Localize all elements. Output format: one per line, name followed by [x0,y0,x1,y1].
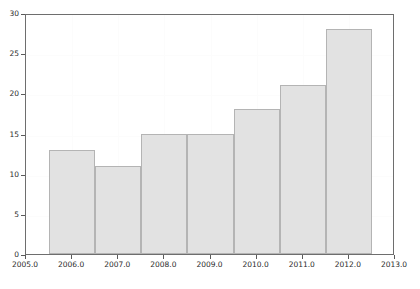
y-tick-label: 5 [0,211,19,219]
y-axis: 051015202530 [0,0,25,289]
y-tick-mark [21,14,25,15]
x-tick-label: 2011.0 [282,260,322,269]
x-tick-mark [163,255,164,259]
bar [326,29,372,254]
x-tick-label: 2009.0 [190,260,230,269]
y-tick-mark [21,94,25,95]
bar [187,134,233,255]
x-tick-mark [117,255,118,259]
y-tick-label: 10 [0,171,19,179]
x-tick-mark [25,255,26,259]
bar-chart-figure: 051015202530 2005.02006.02007.02008.0200… [0,0,420,289]
x-tick-label: 2010.0 [236,260,276,269]
x-tick-mark [210,255,211,259]
bar [141,134,187,255]
figure-caption [0,280,420,289]
x-tick-label: 2007.0 [97,260,137,269]
x-tick-label: 2006.0 [51,260,91,269]
bar [234,109,280,254]
y-tick-label: 25 [0,50,19,58]
y-tick-mark [21,135,25,136]
bar [280,85,326,254]
x-tick-mark [302,255,303,259]
x-axis: 2005.02006.02007.02008.02009.02010.02011… [0,255,420,277]
y-tick-mark [21,215,25,216]
y-tick-label: 30 [0,10,19,18]
y-tick-mark [21,54,25,55]
y-tick-label: 15 [0,131,19,139]
bar [95,166,141,254]
x-tick-label: 2012.0 [328,260,368,269]
x-tick-label: 2008.0 [143,260,183,269]
x-tick-mark [348,255,349,259]
x-tick-label: 2005.0 [5,260,45,269]
y-tick-mark [21,175,25,176]
x-tick-mark [394,255,395,259]
y-tick-label: 20 [0,90,19,98]
x-tick-mark [71,255,72,259]
plot-area [25,14,394,255]
x-tick-mark [256,255,257,259]
x-tick-label: 2013.0 [374,260,414,269]
bar-series [26,15,393,254]
bar [49,150,95,254]
